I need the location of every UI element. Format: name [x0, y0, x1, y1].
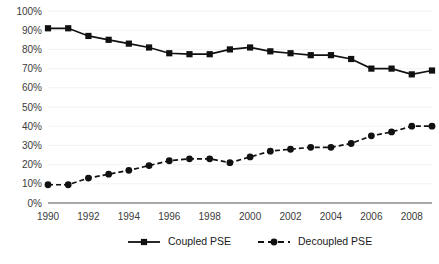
- data-point-marker: [409, 71, 415, 77]
- data-point-marker: [388, 129, 395, 136]
- legend-label: Decoupled PSE: [298, 235, 372, 247]
- data-point-marker: [368, 66, 374, 72]
- data-point-marker: [287, 146, 294, 153]
- y-tick-label: 70%: [22, 63, 42, 74]
- x-tick-label: 2000: [239, 211, 262, 222]
- data-point-marker: [65, 25, 71, 31]
- data-point-marker: [348, 56, 354, 62]
- y-tick-label: 100%: [16, 6, 42, 17]
- chart-legend: Coupled PSEDecoupled PSE: [128, 235, 372, 247]
- data-point-marker: [186, 51, 192, 57]
- data-point-marker: [408, 123, 415, 130]
- legend-marker-circle: [271, 239, 278, 246]
- data-point-marker: [106, 37, 112, 43]
- data-point-marker: [206, 155, 213, 162]
- data-point-marker: [126, 41, 132, 47]
- y-tick-label: 60%: [22, 82, 42, 93]
- y-tick-label: 30%: [22, 140, 42, 151]
- data-point-marker: [166, 157, 173, 164]
- data-point-marker: [227, 46, 233, 52]
- data-point-marker: [307, 144, 314, 151]
- data-point-marker: [247, 154, 254, 161]
- legend-item-decoupled-pse[interactable]: Decoupled PSE: [258, 235, 372, 247]
- legend-label: Coupled PSE: [168, 235, 231, 247]
- data-point-marker: [348, 140, 355, 147]
- legend-item-coupled-pse[interactable]: Coupled PSE: [128, 235, 231, 247]
- data-point-marker: [45, 25, 51, 31]
- data-point-marker: [267, 148, 274, 155]
- y-tick-label: 50%: [22, 102, 42, 113]
- y-tick-label: 0%: [28, 198, 43, 209]
- x-tick-label: 1996: [158, 211, 181, 222]
- data-point-marker: [146, 44, 152, 50]
- data-point-marker: [166, 50, 172, 56]
- data-point-marker: [308, 52, 314, 58]
- y-tick-label: 40%: [22, 121, 42, 132]
- y-tick-label: 80%: [22, 44, 42, 55]
- x-tick-label: 2002: [279, 211, 302, 222]
- data-point-marker: [146, 162, 153, 169]
- y-axis-tick-labels: 0%10%20%30%40%50%60%70%80%90%100%: [16, 6, 42, 209]
- data-point-marker: [368, 132, 375, 139]
- data-point-marker: [186, 155, 193, 162]
- data-point-marker: [207, 51, 213, 57]
- data-point-marker: [247, 44, 253, 50]
- y-tick-label: 10%: [22, 178, 42, 189]
- y-tick-label: 20%: [22, 159, 42, 170]
- x-tick-label: 1998: [199, 211, 222, 222]
- data-point-marker: [226, 159, 233, 166]
- x-tick-label: 2008: [401, 211, 424, 222]
- data-point-marker: [105, 171, 112, 178]
- data-point-marker: [328, 144, 335, 151]
- data-point-marker: [45, 181, 52, 188]
- data-point-marker: [267, 48, 273, 54]
- x-tick-label: 2006: [360, 211, 383, 222]
- x-tick-label: 1994: [118, 211, 141, 222]
- data-point-marker: [429, 67, 435, 73]
- data-point-marker: [429, 123, 436, 130]
- data-point-marker: [287, 50, 293, 56]
- chart-container: 0%10%20%30%40%50%60%70%80%90%100% 199019…: [0, 0, 439, 264]
- data-point-marker: [65, 181, 72, 188]
- legend-marker-square: [141, 239, 147, 245]
- data-point-marker: [125, 167, 132, 174]
- data-point-marker: [328, 52, 334, 58]
- x-tick-label: 1990: [37, 211, 60, 222]
- x-tick-label: 1992: [77, 211, 100, 222]
- y-tick-label: 90%: [22, 25, 42, 36]
- x-axis-tick-labels: 1990199219941996199820002002200420062008: [37, 211, 423, 222]
- data-point-marker: [85, 175, 92, 182]
- data-point-marker: [388, 66, 394, 72]
- line-chart: 0%10%20%30%40%50%60%70%80%90%100% 199019…: [0, 0, 439, 264]
- data-point-marker: [85, 33, 91, 39]
- x-tick-label: 2004: [320, 211, 343, 222]
